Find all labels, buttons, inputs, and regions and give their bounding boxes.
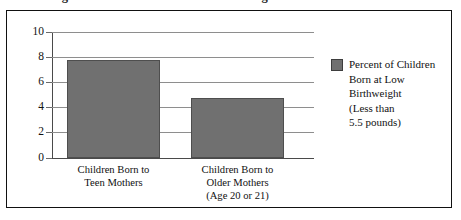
ytick-label-2: 2	[38, 126, 44, 138]
ytick-label-10: 10	[33, 26, 45, 38]
chart-legend: Percent of Children Born at Low Birthwei…	[331, 57, 435, 130]
bar-teen-mothers[interactable]	[67, 60, 160, 158]
ytick-label-6: 6	[38, 76, 44, 88]
cut-off-title-strip: Percentage of Children Born at Low Birth…	[0, 0, 461, 9]
gridline-8	[52, 57, 314, 58]
ytick-6	[46, 82, 52, 83]
category-label-older-mothers: Children Born to Older Mothers (Age 20 o…	[160, 163, 315, 203]
ytick-label-4: 4	[38, 101, 44, 113]
ytick-10	[46, 32, 52, 33]
page-title: Percentage of Children Born at Low Birth…	[14, 0, 454, 4]
bar-older-mothers[interactable]	[191, 98, 284, 158]
ytick-8	[46, 57, 52, 58]
legend-color-swatch-icon	[331, 59, 343, 71]
gridline-10	[52, 32, 314, 33]
ytick-label-8: 8	[38, 51, 44, 63]
ytick-2	[46, 132, 52, 133]
plot-area: 10 8 6 4 2 0 Children Born to Teen Mothe…	[52, 32, 314, 159]
legend-label: Percent of Children Born at Low Birthwei…	[349, 57, 435, 130]
chart-figure-frame: 10 8 6 4 2 0 Children Born to Teen Mothe…	[6, 10, 452, 208]
ytick-0	[46, 158, 52, 159]
y-axis-line	[52, 32, 53, 159]
ytick-4	[46, 107, 52, 108]
